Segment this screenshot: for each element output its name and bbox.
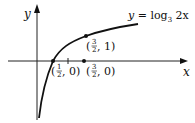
function-label: y = log3 2x bbox=[127, 9, 190, 24]
label-point-on-curve: ( 3 2 , 1) bbox=[86, 38, 115, 54]
svg-text:(: ( bbox=[86, 65, 90, 78]
svg-text:(: ( bbox=[86, 40, 90, 53]
point-x-intercept bbox=[51, 59, 55, 63]
y-axis-arrow-icon bbox=[34, 4, 40, 13]
x-axis-arrow-icon bbox=[180, 58, 188, 64]
label-point-on-axis: ( 3 2 , 0) bbox=[86, 63, 115, 79]
graph: y x y = log3 2x ( 3 2 , 1) ( 1 2 , 0) ( … bbox=[0, 0, 195, 123]
svg-text:1: 1 bbox=[57, 63, 61, 71]
svg-text:, 0): , 0) bbox=[97, 65, 115, 78]
svg-text:, 0): , 0) bbox=[62, 65, 80, 78]
svg-text:3: 3 bbox=[92, 38, 96, 46]
svg-text:2: 2 bbox=[57, 71, 61, 79]
y-axis bbox=[34, 4, 40, 120]
svg-text:2: 2 bbox=[92, 46, 96, 54]
point-on-curve bbox=[84, 34, 88, 38]
label-x-intercept: ( 1 2 , 0) bbox=[51, 63, 80, 79]
svg-text:(: ( bbox=[51, 65, 55, 78]
x-axis-label: x bbox=[183, 65, 190, 79]
svg-text:, 1): , 1) bbox=[97, 40, 115, 53]
svg-text:2: 2 bbox=[92, 71, 96, 79]
y-axis-label: y bbox=[23, 7, 31, 21]
point-on-axis bbox=[82, 59, 86, 63]
svg-text:3: 3 bbox=[92, 63, 96, 71]
x-axis bbox=[8, 58, 188, 64]
